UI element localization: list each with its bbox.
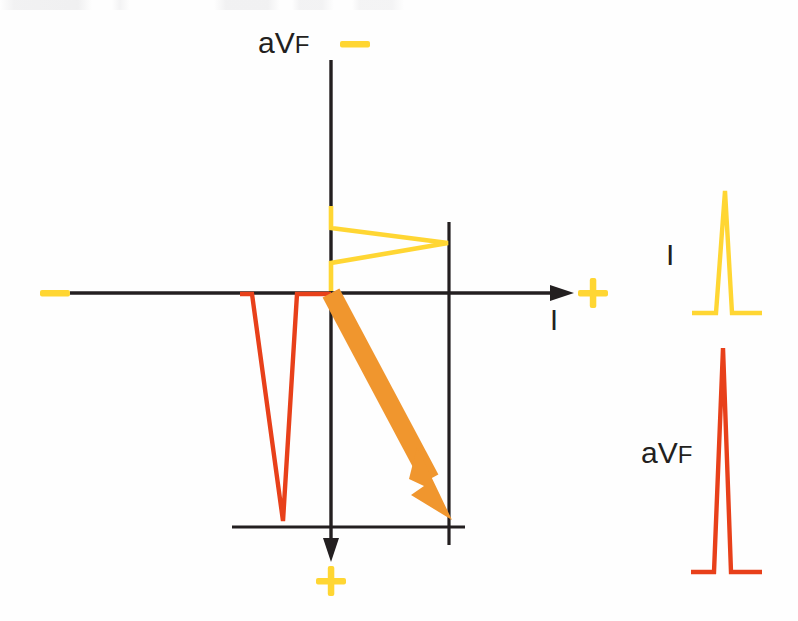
lead-i-positive-sign-icon-v (590, 278, 597, 308)
avf-positive-sign-icon-v (328, 566, 335, 596)
lead-i-negative-sign-icon (40, 290, 70, 297)
lead-strip-avf-label: aVF (641, 438, 692, 468)
avf-axis-label: aVF (258, 28, 309, 58)
lead-strip-i-trace (692, 191, 762, 313)
mean-qrs-vector-arrow (331, 293, 452, 520)
vector-arrow-head (409, 447, 452, 520)
ecg-axis-diagram (0, 0, 798, 621)
lead-strip-avf-trace (691, 348, 762, 572)
lead-i-axis-label-main: I (550, 304, 558, 336)
avf-axis-arrowhead (323, 538, 339, 562)
main-axes (70, 60, 574, 562)
polarity-signs (40, 41, 608, 596)
lead-i-projection-trace (331, 206, 448, 291)
avf-negative-sign-icon (340, 41, 370, 48)
lead-i-axis-arrowhead (550, 285, 574, 301)
lead-strip-i-label: I (666, 240, 674, 270)
avf-axis-label-main: aVF (258, 26, 309, 59)
lead-i-axis-label: I (550, 306, 558, 335)
lead-strip-i-label-text: I (666, 238, 674, 271)
lead-strip-avf-label-text: aVF (641, 436, 692, 469)
vector-arrow-shaft (331, 293, 430, 479)
avf-projection-trace (240, 294, 331, 521)
figure-canvas: aVF I I aVF (0, 0, 798, 621)
